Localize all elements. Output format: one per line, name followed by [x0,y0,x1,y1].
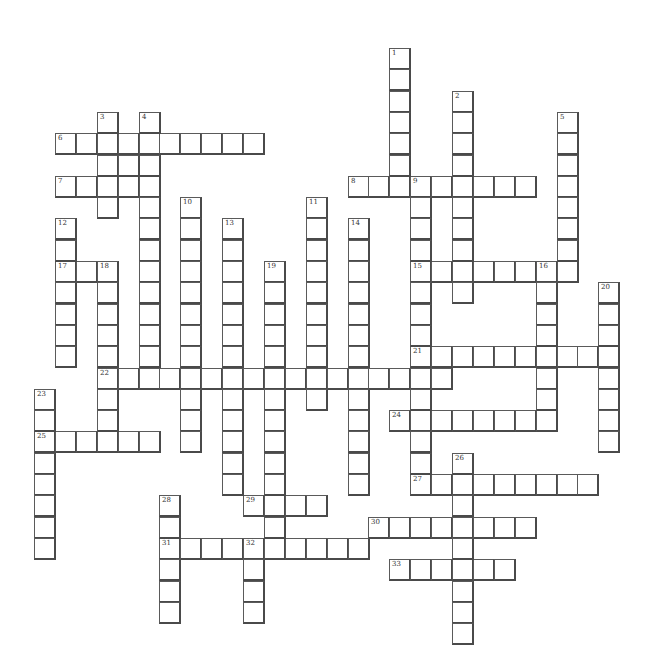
crossword-cell[interactable] [389,112,411,134]
crossword-cell[interactable] [159,517,181,539]
crossword-cell[interactable] [348,389,370,411]
crossword-cell[interactable] [118,368,140,390]
crossword-cell[interactable] [557,218,579,240]
crossword-cell[interactable] [348,282,370,304]
crossword-cell-19[interactable]: 19 [264,261,286,283]
crossword-cell[interactable] [180,538,202,560]
crossword-cell[interactable] [389,133,411,155]
crossword-cell[interactable] [97,325,119,347]
crossword-cell[interactable] [306,304,328,326]
crossword-cell[interactable] [180,261,202,283]
crossword-cell[interactable] [180,410,202,432]
crossword-cell[interactable] [222,389,244,411]
crossword-cell[interactable] [264,346,286,368]
crossword-cell[interactable] [536,410,558,432]
crossword-cell-11[interactable]: 11 [306,197,328,219]
crossword-cell[interactable] [180,431,202,453]
crossword-cell[interactable] [222,474,244,496]
crossword-cell[interactable] [180,368,202,390]
crossword-cell[interactable] [473,474,495,496]
crossword-cell[interactable] [306,282,328,304]
crossword-cell[interactable] [431,559,453,581]
crossword-cell[interactable] [118,155,140,177]
crossword-cell-17[interactable]: 17 [55,261,77,283]
crossword-cell[interactable] [34,517,56,539]
crossword-cell[interactable] [410,431,432,453]
crossword-cell[interactable] [348,368,370,390]
crossword-cell[interactable] [243,602,265,624]
crossword-cell[interactable] [557,155,579,177]
crossword-cell[interactable] [306,218,328,240]
crossword-cell[interactable] [389,155,411,177]
crossword-cell-21[interactable]: 21 [410,346,432,368]
crossword-cell[interactable] [222,261,244,283]
crossword-cell[interactable] [389,176,411,198]
crossword-cell[interactable] [348,346,370,368]
crossword-cell[interactable] [431,368,453,390]
crossword-cell[interactable] [139,282,161,304]
crossword-cell[interactable] [515,176,537,198]
crossword-cell[interactable] [76,261,98,283]
crossword-cell[interactable] [306,389,328,411]
crossword-cell[interactable] [97,176,119,198]
crossword-cell-31[interactable]: 31 [159,538,181,560]
crossword-cell[interactable] [222,346,244,368]
crossword-cell[interactable] [598,346,620,368]
crossword-cell[interactable] [389,517,411,539]
crossword-cell[interactable] [264,282,286,304]
crossword-cell[interactable] [180,282,202,304]
crossword-cell[interactable] [243,581,265,603]
crossword-cell[interactable] [452,581,474,603]
crossword-cell[interactable] [431,346,453,368]
crossword-cell[interactable] [180,325,202,347]
crossword-cell[interactable] [139,346,161,368]
crossword-cell[interactable] [180,389,202,411]
crossword-cell[interactable] [473,176,495,198]
crossword-cell[interactable] [452,218,474,240]
crossword-cell[interactable] [348,410,370,432]
crossword-cell-9[interactable]: 9 [410,176,432,198]
crossword-cell[interactable] [55,325,77,347]
crossword-cell-15[interactable]: 15 [410,261,432,283]
crossword-cell[interactable] [598,368,620,390]
crossword-cell[interactable] [285,368,307,390]
crossword-cell[interactable] [201,133,223,155]
crossword-cell[interactable] [410,410,432,432]
crossword-cell[interactable] [139,261,161,283]
crossword-cell[interactable] [536,368,558,390]
crossword-cell[interactable] [452,623,474,645]
crossword-cell[interactable] [536,346,558,368]
crossword-cell[interactable] [452,474,474,496]
crossword-cell-16[interactable]: 16 [536,261,558,283]
crossword-cell[interactable] [348,538,370,560]
crossword-cell[interactable] [536,325,558,347]
crossword-cell[interactable] [180,133,202,155]
crossword-cell[interactable] [598,431,620,453]
crossword-cell[interactable] [159,581,181,603]
crossword-cell[interactable] [76,431,98,453]
crossword-cell[interactable] [285,538,307,560]
crossword-cell[interactable] [306,346,328,368]
crossword-cell[interactable] [306,325,328,347]
crossword-cell[interactable] [473,559,495,581]
crossword-cell[interactable] [76,176,98,198]
crossword-cell[interactable] [452,495,474,517]
crossword-cell[interactable] [264,368,286,390]
crossword-cell[interactable] [139,304,161,326]
crossword-cell-24[interactable]: 24 [389,410,411,432]
crossword-cell[interactable] [494,176,516,198]
crossword-cell[interactable] [348,325,370,347]
crossword-cell-3[interactable]: 3 [97,112,119,134]
crossword-cell[interactable] [34,495,56,517]
crossword-cell-23[interactable]: 23 [34,389,56,411]
crossword-cell[interactable] [452,346,474,368]
crossword-cell-13[interactable]: 13 [222,218,244,240]
crossword-cell[interactable] [410,453,432,475]
crossword-cell[interactable] [264,495,286,517]
crossword-cell[interactable] [201,368,223,390]
crossword-cell[interactable] [306,261,328,283]
crossword-cell[interactable] [494,474,516,496]
crossword-cell[interactable] [139,176,161,198]
crossword-cell[interactable] [598,410,620,432]
crossword-cell[interactable] [557,133,579,155]
